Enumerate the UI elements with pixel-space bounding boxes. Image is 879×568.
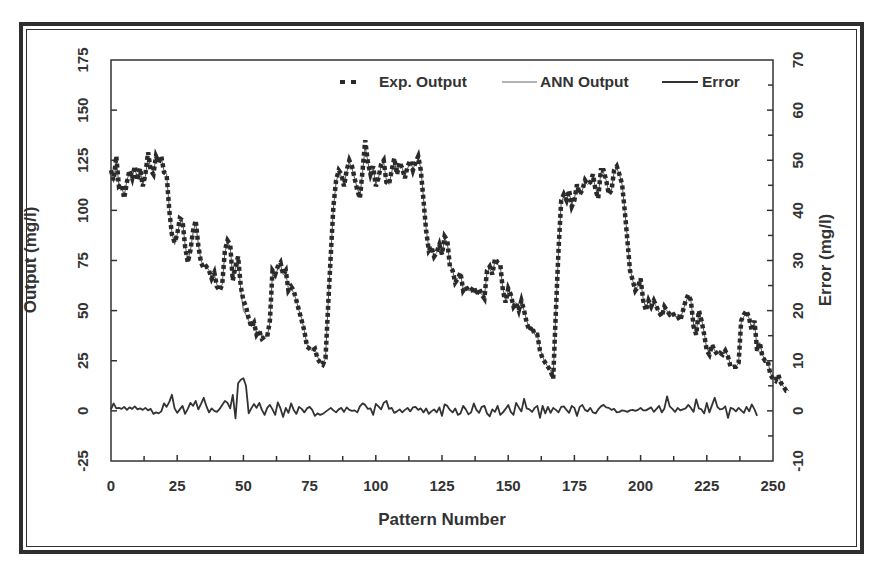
x-tick-label: 100 xyxy=(363,477,388,494)
y-left-tick-label: -25 xyxy=(74,450,91,472)
chart-canvas: 0255075100125150175200225250 -2502550751… xyxy=(0,0,879,568)
x-tick-label: 175 xyxy=(562,477,587,494)
y-left-tick-label: 25 xyxy=(74,352,91,369)
y-right-tick-label: 30 xyxy=(789,252,806,269)
y-right-tick-label: 70 xyxy=(789,52,806,69)
series-exp-output xyxy=(111,140,789,391)
y-left-tick-label: 125 xyxy=(74,148,91,173)
y-right-tick-label: 50 xyxy=(789,152,806,169)
x-tick-label: 150 xyxy=(496,477,521,494)
x-tick-label: 25 xyxy=(169,477,186,494)
series-error xyxy=(111,378,757,418)
x-axis-title: Pattern Number xyxy=(378,510,506,529)
y-right-tick-label: 60 xyxy=(789,102,806,119)
legend-error-label: Error xyxy=(702,73,740,90)
y-left-tick-label: 150 xyxy=(74,98,91,123)
y-right-tick-label: -10 xyxy=(789,450,806,472)
plot-area xyxy=(111,60,773,461)
y-right-tick-label: 40 xyxy=(789,202,806,219)
y-left-tick-label: 0 xyxy=(74,407,91,415)
y-left-tick-label: 75 xyxy=(74,252,91,269)
x-tick-label: 225 xyxy=(694,477,719,494)
legend-exp-label: Exp. Output xyxy=(379,73,467,90)
x-tick-label: 250 xyxy=(760,477,785,494)
y-left-tick-label: 100 xyxy=(74,198,91,223)
y-left-tick-label: 175 xyxy=(74,47,91,72)
x-tick-label: 0 xyxy=(107,477,115,494)
y-right-tick-label: 10 xyxy=(789,352,806,369)
y-left-axis-title: Output (mg/l) xyxy=(21,207,40,314)
series-ann-output xyxy=(111,146,789,391)
x-tick-label: 125 xyxy=(429,477,454,494)
x-tick-label: 50 xyxy=(235,477,252,494)
x-tick-label: 200 xyxy=(628,477,653,494)
y-right-axis-title: Error (mg/l) xyxy=(816,214,835,307)
x-tick-label: 75 xyxy=(301,477,318,494)
y-left-tick-label: 50 xyxy=(74,302,91,319)
legend: Exp. Output ANN Output Error xyxy=(340,73,740,90)
y-right-tick-label: 20 xyxy=(789,302,806,319)
legend-ann-label: ANN Output xyxy=(540,73,629,90)
y-right-tick-label: 0 xyxy=(789,407,806,415)
